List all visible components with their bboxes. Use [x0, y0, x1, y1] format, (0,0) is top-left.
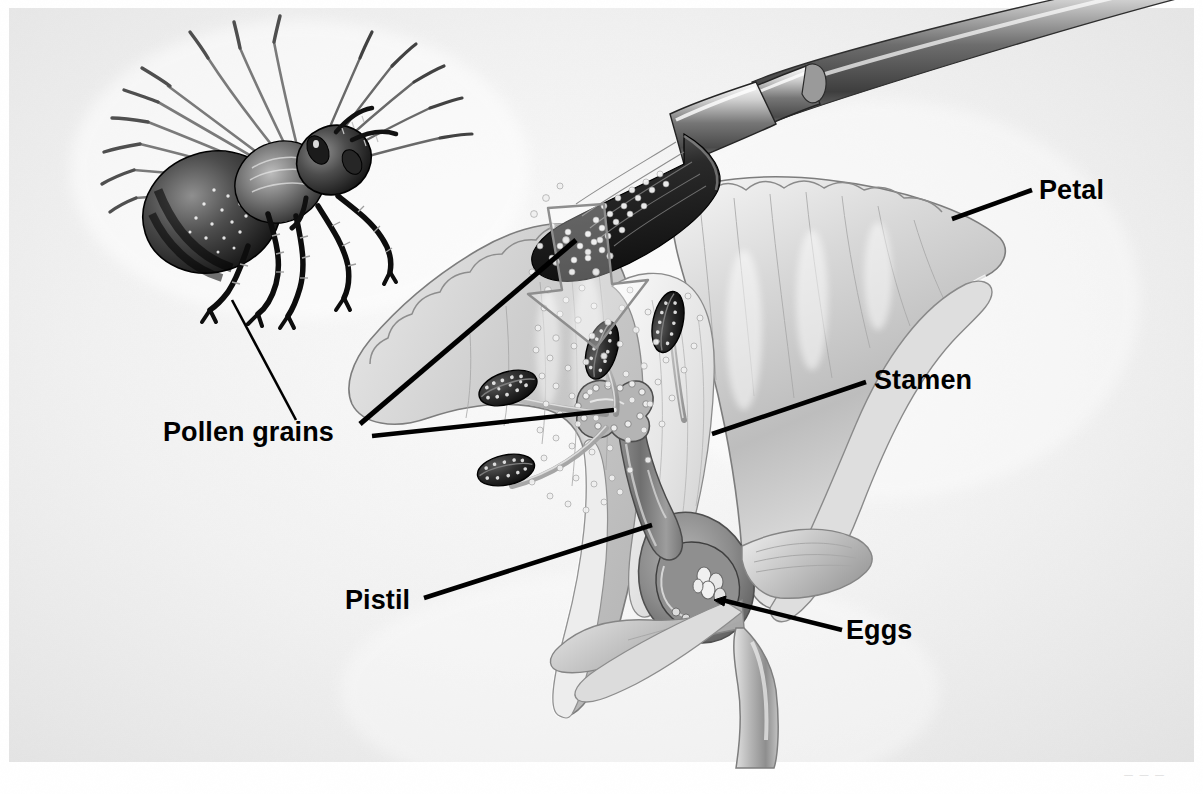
label-pollen-grains: Pollen grains: [163, 419, 334, 446]
botanical-illustration: [0, 0, 1203, 794]
illustration-canvas: Pollen grains Petal Stamen Pistil Eggs —…: [0, 0, 1203, 794]
label-petal: Petal: [1039, 177, 1104, 204]
label-stamen: Stamen: [874, 367, 972, 394]
credit-mark: — — —: [1124, 770, 1166, 780]
label-eggs: Eggs: [846, 617, 912, 644]
label-pistil: Pistil: [345, 587, 410, 614]
